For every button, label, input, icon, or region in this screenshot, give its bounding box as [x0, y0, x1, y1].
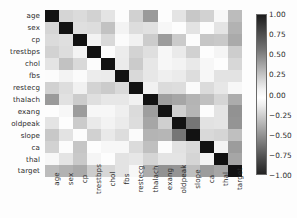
heatmap-cell [214, 70, 228, 82]
heatmap-cell [45, 70, 59, 82]
heatmap-cell [101, 105, 115, 117]
heatmap-cell [59, 46, 73, 58]
heatmap-cell [115, 141, 129, 153]
y-tick-label-ca: ca [0, 141, 42, 153]
heatmap-cell [158, 70, 172, 82]
heatmap-cell [129, 117, 143, 129]
heatmap-cell [186, 34, 200, 46]
heatmap-cell [158, 58, 172, 70]
heatmap-cell [129, 129, 143, 141]
heatmap-cell [87, 70, 101, 82]
heatmap-cell [101, 141, 115, 153]
heatmap-cell [200, 70, 214, 82]
heatmap-cell [59, 94, 73, 106]
heatmap-cell [200, 82, 214, 94]
x-tick-label-target: target [228, 178, 242, 218]
heatmap-cell [228, 94, 242, 106]
heatmap-cell [186, 82, 200, 94]
heatmap-cell [45, 22, 59, 34]
heatmap-cell [101, 94, 115, 106]
heatmap-cell [186, 153, 200, 165]
heatmap-cell [214, 105, 228, 117]
heatmap-cell [115, 94, 129, 106]
heatmap-cell [143, 46, 157, 58]
x-tick-label-trestbps: trestbps [87, 178, 101, 218]
heatmap-cell [87, 10, 101, 22]
heatmap-cell [45, 153, 59, 165]
heatmap-cell [186, 70, 200, 82]
heatmap-cell [59, 22, 73, 34]
heatmap-cell [115, 117, 129, 129]
heatmap-cell [59, 153, 73, 165]
colorbar-tick-label: 0.00 [269, 90, 286, 99]
heatmap-cell [45, 94, 59, 106]
heatmap-cell [200, 58, 214, 70]
heatmap-cell [115, 46, 129, 58]
x-tick-label-fbs: fbs [115, 178, 129, 218]
heatmap-cell [87, 129, 101, 141]
x-tick-label-text: target [235, 168, 244, 190]
heatmap-cell [101, 34, 115, 46]
heatmap-cell [73, 82, 87, 94]
y-tick-label-cp: cp [0, 34, 42, 46]
y-axis-tick-labels: agesexcptrestbpscholfbsrestecgthalachexa… [0, 10, 42, 177]
y-tick-label-restecg: restecg [0, 82, 42, 94]
heatmap-cell [59, 105, 73, 117]
heatmap-cell [186, 94, 200, 106]
heatmap-cell [172, 34, 186, 46]
heatmap-cell [172, 153, 186, 165]
heatmap-cell [129, 10, 143, 22]
heatmap-cell [214, 141, 228, 153]
heatmap-cell [101, 129, 115, 141]
heatmap-cell [45, 129, 59, 141]
heatmap-cell [228, 153, 242, 165]
heatmap-cell [129, 94, 143, 106]
heatmap-cell [101, 10, 115, 22]
heatmap-cell [228, 117, 242, 129]
heatmap-cell [129, 153, 143, 165]
heatmap-cell [115, 105, 129, 117]
x-tick-label-thal: thal [214, 178, 228, 218]
colorbar-tick-labels: 1.000.750.500.250.00−0.25−0.50−0.75−1.00 [269, 14, 297, 175]
heatmap-cell [172, 117, 186, 129]
heatmap-cell [200, 34, 214, 46]
heatmap-cell [59, 34, 73, 46]
heatmap-cell [45, 141, 59, 153]
heatmap-cell [172, 22, 186, 34]
heatmap-cell [200, 10, 214, 22]
heatmap-cell [158, 105, 172, 117]
colorbar-tick-label: 1.00 [269, 10, 286, 19]
heatmap-cell [228, 46, 242, 58]
heatmap-cell [45, 10, 59, 22]
heatmap-cell [200, 153, 214, 165]
colorbar-gradient [256, 14, 267, 175]
heatmap-cell [143, 94, 157, 106]
heatmap-cell [87, 82, 101, 94]
colorbar-tick-label: 0.50 [269, 50, 286, 59]
heatmap-cell [115, 153, 129, 165]
heatmap-cell [73, 46, 87, 58]
y-tick-label-thal: thal [0, 153, 42, 165]
heatmap-cell [143, 10, 157, 22]
heatmap-cell [73, 105, 87, 117]
heatmap-cell [73, 10, 87, 22]
heatmap-cell [200, 129, 214, 141]
heatmap-cell [101, 22, 115, 34]
heatmap-cell [172, 10, 186, 22]
y-tick-label-trestbps: trestbps [0, 46, 42, 58]
heatmap-cell [87, 34, 101, 46]
heatmap-cell [143, 58, 157, 70]
heatmap-cell [115, 22, 129, 34]
heatmap-cell [172, 105, 186, 117]
y-tick-label-sex: sex [0, 22, 42, 34]
heatmap-cell [143, 117, 157, 129]
heatmap-cell [200, 94, 214, 106]
heatmap-cell [186, 10, 200, 22]
x-tick-label-ca: ca [200, 178, 214, 218]
heatmap-cell [115, 10, 129, 22]
heatmap-cell [143, 82, 157, 94]
heatmap-cell [172, 58, 186, 70]
heatmap-cell [101, 58, 115, 70]
heatmap-cell [101, 82, 115, 94]
heatmap-cell [228, 22, 242, 34]
